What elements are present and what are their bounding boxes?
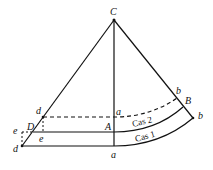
label-e-inner: e [39,133,44,144]
label-C: C [110,6,117,17]
label-B: B [185,95,191,106]
label-b-top: b [176,85,181,96]
point-d-bottom [21,145,24,148]
apex-point [113,19,116,22]
label-A: A [104,121,112,132]
left-radius [22,20,114,146]
label-b-right: b [198,110,203,121]
label-e-far: e [13,125,18,136]
label-cas-1: Cas 1 [134,129,156,144]
label-d-top: d [36,105,42,116]
label-d-bottom: d [13,143,19,154]
label-D: D [26,121,35,132]
dashed-level-line [43,98,177,117]
sector-diagram: C d a b D A B e e d a b Cas 2 Cas 1 [0,0,213,170]
right-radius [114,20,193,118]
label-a-top: a [116,106,121,117]
point-b-right [192,117,195,120]
label-a-bottom: a [111,149,116,160]
point-d-top [42,116,45,119]
